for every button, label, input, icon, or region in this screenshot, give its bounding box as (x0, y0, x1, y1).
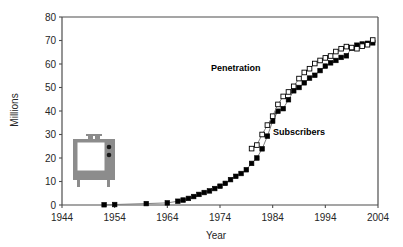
data-point (286, 90, 291, 95)
data-point (249, 146, 254, 151)
data-point (239, 171, 244, 176)
data-point (281, 94, 286, 99)
tv-screen (78, 143, 104, 170)
chart-container: 0102030405060708019441954196419741984199… (0, 0, 403, 247)
data-point (365, 42, 370, 47)
data-point (334, 49, 339, 54)
data-point (318, 68, 323, 73)
data-point (102, 202, 107, 207)
data-point (265, 123, 270, 128)
data-point (181, 198, 186, 203)
data-point (260, 132, 265, 137)
y-tick-label: 10 (45, 176, 57, 187)
data-point (360, 44, 365, 49)
data-point (197, 192, 202, 197)
vintage-tv-icon (73, 134, 115, 187)
data-point (270, 114, 275, 119)
y-tick-label: 60 (45, 59, 57, 70)
x-tick-label: 1944 (51, 212, 74, 223)
y-tick-label: 40 (45, 106, 57, 117)
tv-knob-bottom (107, 153, 112, 158)
data-point (255, 156, 260, 161)
x-axis-title: Year (206, 230, 227, 241)
y-tick-label: 30 (45, 129, 57, 140)
series-annotation: Subscribers (273, 127, 325, 137)
y-tick-label: 80 (45, 12, 57, 23)
x-tick-label: 1964 (156, 212, 179, 223)
data-point (276, 109, 281, 114)
data-point (286, 97, 291, 102)
data-point (176, 199, 181, 204)
data-point (202, 190, 207, 195)
data-point (344, 44, 349, 49)
data-point (323, 56, 328, 61)
data-point (313, 73, 318, 78)
chart-background (0, 0, 403, 247)
data-point (302, 70, 307, 75)
data-point (207, 189, 212, 194)
data-point (291, 88, 296, 93)
data-point (144, 201, 149, 206)
y-tick-label: 70 (45, 35, 57, 46)
data-point (344, 53, 349, 58)
data-point (234, 174, 239, 179)
data-point (339, 46, 344, 51)
y-tick-label: 20 (45, 153, 57, 164)
y-axis-title: Millions (9, 93, 20, 126)
data-point (228, 177, 233, 182)
data-point (265, 134, 270, 139)
y-tick-label: 0 (50, 200, 56, 211)
series-annotation: Penetration (211, 63, 261, 73)
data-point (297, 76, 302, 81)
data-point (281, 106, 286, 111)
data-point (218, 184, 223, 189)
data-point (349, 45, 354, 50)
data-point (165, 201, 170, 206)
x-tick-label: 2004 (367, 212, 390, 223)
data-point (307, 76, 312, 81)
y-tick-label: 50 (45, 82, 57, 93)
data-point (223, 181, 228, 186)
data-point (276, 102, 281, 107)
tv-knob-top (107, 145, 112, 150)
data-point (318, 58, 323, 63)
tv-leg-right (107, 180, 110, 187)
data-point (323, 64, 328, 69)
data-point (255, 143, 260, 148)
data-point (370, 38, 375, 43)
x-tick-label: 1994 (314, 212, 337, 223)
data-point (212, 186, 217, 191)
line-chart: 0102030405060708019441954196419741984199… (0, 0, 403, 247)
x-tick-label: 1954 (104, 212, 127, 223)
data-point (339, 55, 344, 60)
data-point (302, 81, 307, 86)
data-point (328, 61, 333, 66)
x-tick-label: 1974 (209, 212, 232, 223)
data-point (186, 196, 191, 201)
data-point (313, 61, 318, 66)
data-point (291, 84, 296, 89)
x-tick-label: 1984 (262, 212, 285, 223)
tv-antenna-bar (86, 134, 102, 136)
data-point (297, 85, 302, 90)
data-point (191, 194, 196, 199)
data-point (307, 66, 312, 71)
data-point (249, 161, 254, 166)
data-point (328, 54, 333, 59)
data-point (355, 46, 360, 51)
data-point (244, 167, 249, 172)
tv-leg-left (77, 180, 80, 187)
data-point (260, 147, 265, 152)
data-point (334, 58, 339, 63)
data-point (112, 202, 117, 207)
